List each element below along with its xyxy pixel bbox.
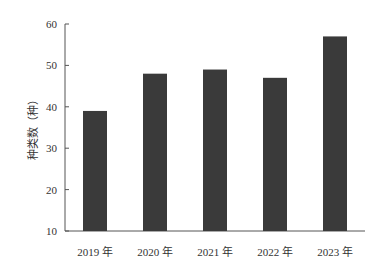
bar-2023 [323,36,347,231]
bar-chart: 102030405060 2019 年2020 年2021 年2022 年202… [0,0,383,277]
y-tick-label: 30 [46,142,58,154]
y-tick-label: 10 [46,225,58,237]
y-axis-title: 种类数（种） [26,94,40,160]
bar-2021 [203,70,227,231]
bar-2020 [143,74,167,231]
x-tick-label: 2022 年 [257,245,293,258]
x-tick-label: 2019 年 [77,245,113,258]
y-tick-label: 20 [46,184,58,196]
bar-2019 [83,111,107,231]
y-tick-label: 50 [46,59,58,71]
x-tick-label: 2021 年 [197,245,233,258]
bars [83,36,347,231]
y-tick-label: 60 [46,18,58,30]
x-tick-label: 2023 年 [317,245,353,258]
y-tick-label: 40 [46,101,58,113]
x-tick-label: 2020 年 [137,245,173,258]
y-axis: 102030405060 [46,18,69,237]
bar-2022 [263,78,287,231]
x-axis: 2019 年2020 年2021 年2022 年2023 年 [65,231,365,258]
